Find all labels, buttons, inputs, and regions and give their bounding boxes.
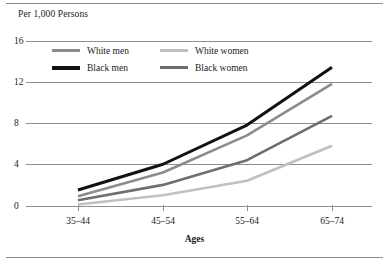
legend-swatch-icon — [52, 66, 80, 70]
line-chart-figure: Per 1,000 Persons 1612840 35–4445–5455–6… — [0, 0, 389, 270]
legend-row-0: White menWhite women — [52, 42, 302, 59]
legend-item-white-men[interactable]: White men — [52, 46, 160, 56]
legend-label: Black women — [195, 63, 248, 73]
legend-item-black-men[interactable]: Black men — [52, 63, 160, 73]
legend-swatch-icon — [160, 66, 188, 69]
legend-swatch-icon — [52, 49, 80, 52]
plot-area: 1612840 35–4445–5455–6465–74 — [0, 0, 389, 270]
x-axis-title: Ages — [0, 234, 389, 244]
legend-item-black-women[interactable]: Black women — [160, 63, 248, 73]
data-series-group — [0, 0, 389, 270]
legend-row-1: Black menBlack women — [52, 59, 302, 76]
legend-label: Black men — [87, 63, 128, 73]
legend-label: White men — [87, 46, 129, 56]
chart-legend: White menWhite womenBlack menBlack women — [52, 42, 302, 76]
legend-item-white-women[interactable]: White women — [160, 46, 249, 56]
legend-swatch-icon — [160, 49, 188, 52]
legend-label: White women — [195, 46, 249, 56]
